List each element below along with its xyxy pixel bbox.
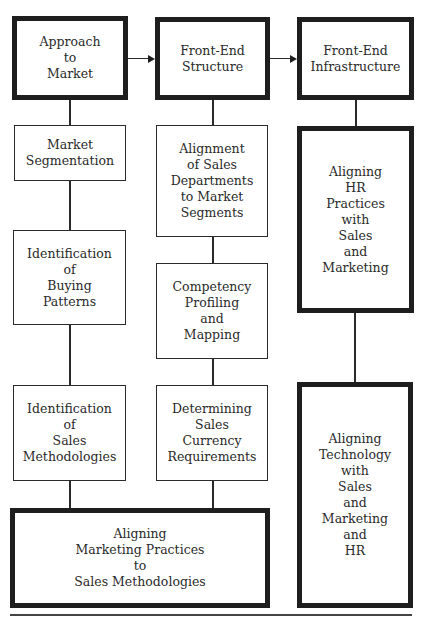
node-aligning-technology: Aligning Technology with Sales and Marke… — [297, 382, 413, 608]
connector — [355, 100, 357, 126]
node-label: Aligning Marketing Practices to Sales Me… — [74, 526, 205, 590]
node-label: Aligning HR Practices with Sales and Mar… — [322, 164, 388, 276]
arrowhead-icon — [290, 55, 297, 63]
node-approach-to-market: Approach to Market — [12, 16, 128, 100]
node-label: Approach to Market — [39, 34, 100, 82]
node-alignment-sales-departments: Alignment of Sales Departments to Market… — [156, 125, 268, 237]
connector — [69, 481, 71, 508]
node-label: Identification of Sales Methodologies — [23, 401, 117, 465]
connector — [212, 100, 214, 125]
arrowhead-icon — [148, 55, 155, 63]
node-market-segmentation: Market Segmentation — [14, 125, 126, 181]
node-aligning-marketing-practices: Aligning Marketing Practices to Sales Me… — [10, 508, 270, 608]
node-identification-sales-methodologies: Identification of Sales Methodologies — [13, 385, 126, 481]
node-label: Determining Sales Currency Requirements — [168, 401, 257, 465]
node-aligning-hr-practices: Aligning HR Practices with Sales and Mar… — [297, 126, 414, 313]
node-label: Aligning Technology with Sales and Marke… — [319, 431, 391, 559]
node-front-end-structure: Front-End Structure — [155, 17, 270, 100]
connector — [354, 313, 356, 382]
bottom-rule — [10, 614, 412, 616]
connector — [212, 359, 214, 385]
node-label: Alignment of Sales Departments to Market… — [171, 141, 254, 221]
connector — [69, 325, 71, 385]
node-label: Market Segmentation — [26, 137, 114, 169]
arrow-line-2 — [270, 58, 290, 60]
connector — [212, 237, 214, 263]
arrow-line-1 — [128, 58, 148, 60]
node-competency-profiling: Competency Profiling and Mapping — [156, 263, 268, 359]
connector — [69, 181, 71, 230]
node-identification-buying-patterns: Identification of Buying Patterns — [13, 230, 126, 325]
node-label: Front-End Structure — [180, 43, 245, 75]
node-front-end-infrastructure: Front-End Infrastructure — [297, 17, 414, 100]
connector — [69, 100, 71, 125]
node-label: Front-End Infrastructure — [311, 43, 401, 75]
node-determining-sales-currency: Determining Sales Currency Requirements — [156, 385, 268, 481]
node-label: Competency Profiling and Mapping — [173, 279, 252, 343]
node-label: Identification of Buying Patterns — [27, 246, 112, 310]
connector — [212, 481, 214, 508]
